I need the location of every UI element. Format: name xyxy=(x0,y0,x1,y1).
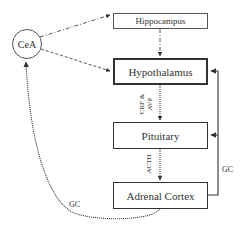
node-cea-label: CeA xyxy=(18,39,36,50)
label-gc-left: GC xyxy=(69,200,80,209)
node-cea: CeA xyxy=(12,29,42,59)
label-crf-avp: CRF & AVP xyxy=(138,89,154,119)
label-gc-right: GC xyxy=(222,165,233,174)
node-hypothalamus: Hypothalamus xyxy=(113,58,208,85)
node-hippocampus: Hippocampus xyxy=(113,13,208,29)
node-adrenal-label: Adrenal Cortex xyxy=(126,190,194,202)
edge-gc-feedback-trunk xyxy=(208,71,218,195)
node-adrenal-cortex: Adrenal Cortex xyxy=(113,182,208,209)
label-crf-avp-line1: CRF & xyxy=(138,89,146,119)
node-pituitary: Pituitary xyxy=(113,122,208,149)
node-hypothalamus-label: Hypothalamus xyxy=(128,66,192,78)
edge-cea-hypothalamus xyxy=(41,49,110,71)
edge-cea-hippocampus xyxy=(40,15,110,37)
label-acth: ACTH xyxy=(145,150,155,178)
node-hippocampus-label: Hippocampus xyxy=(136,16,186,26)
label-crf-avp-line2: AVP xyxy=(146,89,154,119)
node-pituitary-label: Pituitary xyxy=(142,130,180,142)
